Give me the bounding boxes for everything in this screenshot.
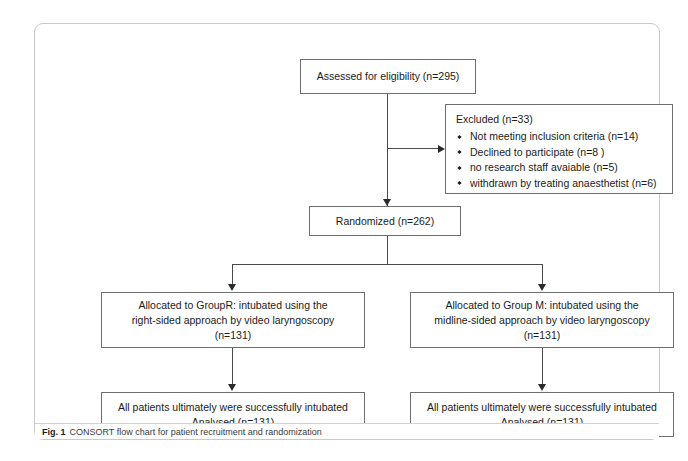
connector-to-group-m	[542, 264, 543, 285]
excluded-title: Excluded (n=33)	[456, 112, 533, 127]
bullet-icon	[457, 181, 461, 185]
arrow-down-icon	[228, 384, 236, 391]
connector-to-group-r	[232, 264, 233, 285]
alloc-right-count: (n=131)	[524, 328, 560, 343]
node-randomized-label: Randomized (n=262)	[336, 214, 434, 229]
node-randomized: Randomized (n=262)	[309, 206, 461, 236]
node-assessed-for-eligibility: Assessed for eligibility (n=295)	[300, 59, 476, 94]
figure-caption: Fig. 1 CONSORT flow chart for patient re…	[35, 423, 659, 439]
node-allocated-group-m: Allocated to Group M: intubated using th…	[410, 292, 674, 348]
arrow-down-icon	[538, 384, 546, 391]
node-excluded: Excluded (n=33) Not meeting inclusion cr…	[445, 104, 673, 194]
list-item: Not meeting inclusion criteria (n=14)	[456, 129, 656, 145]
excluded-reason-list: Not meeting inclusion criteria (n=14) De…	[456, 129, 656, 191]
outcome-right-line-1: All patients ultimately were successfull…	[427, 400, 657, 415]
node-allocated-group-r: Allocated to GroupR: intubated using the…	[101, 292, 365, 348]
bullet-icon	[457, 135, 461, 139]
alloc-right-line-1: Allocated to Group M: intubated using th…	[445, 298, 638, 313]
list-item: withdrawn by treating anaesthetist (n=6)	[456, 176, 656, 192]
excluded-reason-label: Declined to participate (n=8 )	[470, 146, 605, 158]
alloc-left-line-1: Allocated to GroupR: intubated using the	[138, 298, 327, 313]
connector-to-excluded	[387, 148, 439, 149]
alloc-right-line-2: midline-sided approach by video laryngos…	[434, 313, 649, 328]
alloc-left-count: (n=131)	[215, 328, 251, 343]
arrow-down-icon	[538, 284, 546, 291]
connector-allocation-split	[232, 264, 543, 265]
excluded-reason-label: no research staff avaiable (n=5)	[470, 161, 618, 173]
excluded-reason-label: Not meeting inclusion criteria (n=14)	[470, 130, 638, 142]
arrow-right-icon	[438, 145, 445, 153]
figure-caption-text: CONSORT flow chart for patient recruitme…	[70, 427, 322, 437]
connector-assessed-to-randomized	[387, 94, 388, 206]
outcome-left-line-1: All patients ultimately were successfull…	[118, 400, 348, 415]
connector-randomized-stem	[387, 236, 388, 264]
connector-group-r-to-outcome	[232, 348, 233, 385]
arrow-down-icon	[383, 199, 391, 206]
alloc-left-line-2: right-sided approach by video laryngosco…	[132, 313, 335, 328]
figure-caption-label: Fig. 1	[42, 427, 66, 437]
figure-frame: Assessed for eligibility (n=295) Exclude…	[34, 23, 660, 440]
list-item: no research staff avaiable (n=5)	[456, 160, 656, 176]
node-assessed-label: Assessed for eligibility (n=295)	[317, 69, 460, 84]
arrow-down-icon	[228, 284, 236, 291]
bullet-icon	[457, 150, 461, 154]
connector-group-m-to-outcome	[542, 348, 543, 385]
bullet-icon	[457, 166, 461, 170]
list-item: Declined to participate (n=8 )	[456, 145, 656, 161]
excluded-reason-label: withdrawn by treating anaesthetist (n=6)	[470, 177, 656, 189]
